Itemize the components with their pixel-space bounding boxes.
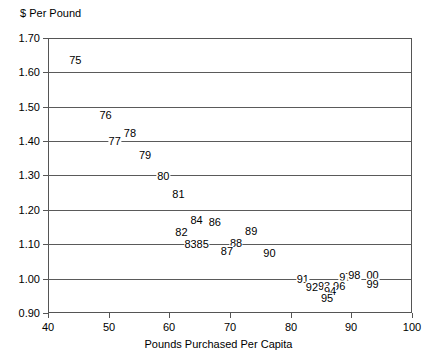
x-tick-mark: [291, 313, 292, 318]
y-tick-label: 1.00: [0, 274, 40, 285]
data-point-label-80: 80: [157, 170, 170, 181]
data-point-label-87: 87: [220, 246, 233, 257]
data-point-label-98: 98: [348, 270, 361, 281]
data-point-label-76: 76: [99, 110, 112, 121]
data-point-label-90: 90: [263, 247, 276, 258]
y-tick-mark: [43, 38, 48, 39]
y-tick-mark: [43, 175, 48, 176]
data-point-label-99: 99: [366, 278, 379, 289]
data-point-label-78: 78: [123, 127, 136, 138]
y-tick-label: 1.30: [0, 170, 40, 181]
y-tick-label: 1.40: [0, 136, 40, 147]
data-point-label-79: 79: [138, 149, 151, 160]
y-tick-mark: [43, 141, 48, 142]
data-point-label-82: 82: [175, 227, 188, 238]
gridline: [48, 72, 412, 73]
y-tick-mark: [43, 107, 48, 108]
x-tick-mark: [48, 313, 49, 318]
data-point-label-95: 95: [320, 292, 333, 303]
data-point-label-84: 84: [190, 215, 203, 226]
x-tick-label: 40: [42, 322, 54, 333]
gridline: [48, 141, 412, 142]
x-tick-label: 70: [224, 322, 236, 333]
y-axis-title: $ Per Pound: [20, 7, 81, 20]
scatter-chart: $ Per Pound 7576787779808184868283858988…: [0, 0, 437, 362]
x-tick-label: 50: [103, 322, 115, 333]
x-axis-title: Pounds Purchased Per Capita: [0, 338, 437, 351]
gridline: [48, 210, 412, 211]
y-tick-label: 1.20: [0, 205, 40, 216]
x-tick-mark: [351, 313, 352, 318]
data-point-label-81: 81: [172, 189, 185, 200]
data-point-label-75: 75: [69, 55, 82, 66]
y-tick-mark: [43, 210, 48, 211]
data-point-label-92: 92: [305, 282, 318, 293]
data-point-label-89: 89: [245, 225, 258, 236]
y-tick-label: 1.70: [0, 33, 40, 44]
gridline: [48, 107, 412, 108]
y-tick-label: 1.60: [0, 67, 40, 78]
y-tick-mark: [43, 72, 48, 73]
y-tick-label: 1.10: [0, 239, 40, 250]
x-tick-label: 100: [403, 322, 421, 333]
x-tick-mark: [169, 313, 170, 318]
y-tick-label: 0.90: [0, 308, 40, 319]
x-tick-label: 60: [163, 322, 175, 333]
x-tick-label: 80: [285, 322, 297, 333]
data-point-label-85: 85: [196, 239, 209, 250]
plot-area: 7576787779808184868283858988879091979800…: [48, 38, 412, 313]
x-tick-mark: [230, 313, 231, 318]
data-point-label-77: 77: [108, 136, 121, 147]
x-tick-mark: [109, 313, 110, 318]
y-tick-mark: [43, 244, 48, 245]
y-tick-label: 1.50: [0, 102, 40, 113]
data-point-label-86: 86: [208, 216, 221, 227]
gridline: [48, 175, 412, 176]
x-tick-label: 90: [345, 322, 357, 333]
y-tick-mark: [43, 279, 48, 280]
x-tick-mark: [412, 313, 413, 318]
